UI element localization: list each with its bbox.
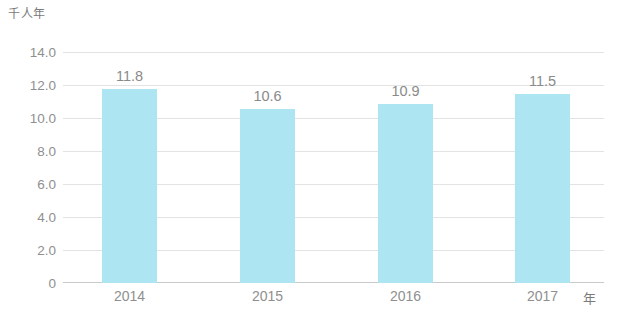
- y-tick-label: 6.0: [4, 177, 56, 192]
- x-tick-label-2017: 2017: [515, 288, 570, 304]
- bar-2014[interactable]: [102, 89, 157, 283]
- y-tick-label: 4.0: [4, 210, 56, 225]
- bar-value-label: 10.6: [240, 88, 295, 104]
- x-axis-tick-labels: 2014 2015 2016 2017: [63, 286, 604, 311]
- plot-area: 11.8 10.6 10.9 11.5: [63, 52, 604, 283]
- bar-chart: 千人年 14.0 12.0 10.0 8.0 6.0 4.0 2.0 0 11.…: [0, 0, 619, 311]
- bar-2015[interactable]: [240, 109, 295, 283]
- y-tick-label: 10.0: [4, 111, 56, 126]
- y-tick-label: 0: [4, 276, 56, 291]
- gridline: [63, 52, 604, 53]
- x-tick-label-2014: 2014: [102, 288, 157, 304]
- bar-2017[interactable]: [515, 94, 570, 283]
- x-axis-unit-label: 年: [583, 288, 596, 307]
- y-tick-label: 12.0: [4, 78, 56, 93]
- bar-value-label: 11.8: [102, 68, 157, 84]
- x-tick-label-2015: 2015: [240, 288, 295, 304]
- bar-2016[interactable]: [378, 104, 433, 283]
- bar-value-label: 10.9: [378, 83, 433, 99]
- y-tick-label: 8.0: [4, 144, 56, 159]
- y-tick-label: 2.0: [4, 243, 56, 258]
- y-axis-tick-labels: 14.0 12.0 10.0 8.0 6.0 4.0 2.0 0: [0, 52, 56, 283]
- y-tick-label: 14.0: [4, 45, 56, 60]
- y-axis-unit-label: 千人年: [8, 4, 46, 21]
- bar-value-label: 11.5: [515, 73, 570, 89]
- x-tick-label-2016: 2016: [378, 288, 433, 304]
